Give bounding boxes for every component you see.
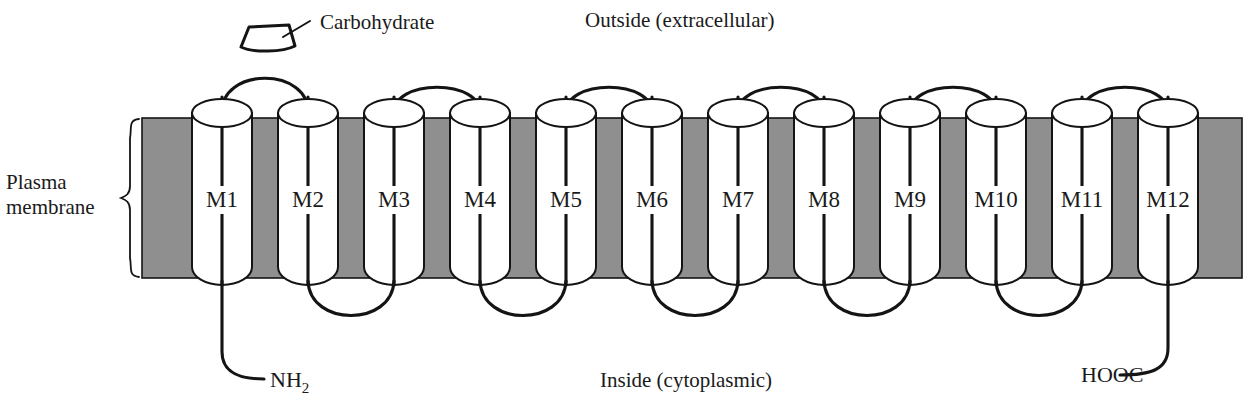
- helix-label-m2: M2: [292, 187, 324, 212]
- cylinder-rim-m12: [1138, 99, 1198, 127]
- helix-label-m5: M5: [550, 187, 582, 212]
- cylinder-rim-m6: [622, 99, 682, 127]
- outside-label: Outside (extracellular): [585, 8, 775, 32]
- n-terminus-tail: [222, 281, 264, 379]
- cytoplasmic-loop-m8-m9: [824, 281, 910, 316]
- plasma-membrane-label-line2: membrane: [6, 195, 95, 219]
- cylinder-rim-m5: [536, 99, 596, 127]
- c-terminus-label: HOOC: [1081, 362, 1143, 387]
- helix-label-m1: M1: [206, 187, 238, 212]
- cytoplasmic-loop-m4-m5: [480, 281, 566, 316]
- cylinder-rim-m11: [1052, 99, 1112, 127]
- plasma-membrane-label-line1: Plasma: [6, 170, 67, 194]
- helix-label-m12: M12: [1146, 187, 1189, 212]
- cytoplasmic-loop-m6-m7: [652, 281, 738, 316]
- cylinder-rim-m9: [880, 99, 940, 127]
- helix-label-m4: M4: [464, 187, 496, 212]
- cylinder-rim-m8: [794, 99, 854, 127]
- cylinder-rim-m7: [708, 99, 768, 127]
- helix-label-m8: M8: [808, 187, 840, 212]
- cylinder-rim-m1: [192, 99, 252, 127]
- helix-label-m7: M7: [722, 187, 754, 212]
- helix-label-m11: M11: [1061, 187, 1104, 212]
- carbohydrate-label: Carbohydrate: [320, 10, 434, 34]
- membrane-protein-diagram: M1M2M3M4M5M6M7M8M9M10M11M12 Carbohydrate…: [0, 0, 1251, 399]
- cytoplasmic-loop-m2-m3: [308, 281, 394, 316]
- n-terminus-label: NH2: [270, 367, 309, 396]
- cylinder-rim-m3: [364, 99, 424, 127]
- c-terminus-tail: [1120, 281, 1168, 375]
- helix-label-m10: M10: [974, 187, 1017, 212]
- plasma-membrane-brace: [121, 119, 139, 277]
- carbohydrate-group: [241, 25, 295, 51]
- helix-label-m3: M3: [378, 187, 410, 212]
- cylinder-rim-m10: [966, 99, 1026, 127]
- helix-label-m9: M9: [894, 187, 926, 212]
- cylinder-rim-m4: [450, 99, 510, 127]
- cylinder-rim-m2: [278, 99, 338, 127]
- helix-label-m6: M6: [636, 187, 668, 212]
- inside-label: Inside (cytoplasmic): [600, 368, 772, 392]
- cytoplasmic-loop-m10-m11: [996, 281, 1082, 316]
